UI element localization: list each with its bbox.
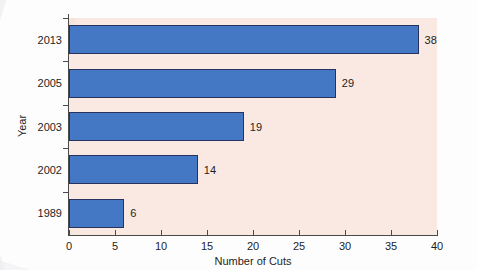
x-tick-label-30: 30 bbox=[339, 241, 351, 252]
x-axis-title: Number of Cuts bbox=[214, 256, 291, 267]
y-tick-mark bbox=[63, 18, 69, 19]
y-tick-label-2003: 2003 bbox=[2, 121, 62, 132]
bar-value-label-2005: 29 bbox=[342, 78, 354, 89]
x-tick-label-15: 15 bbox=[201, 241, 213, 252]
x-tick-mark bbox=[69, 230, 70, 236]
bar-row[interactable]: 38 bbox=[69, 25, 437, 54]
y-axis-tick-labels: 20132005200320021989 bbox=[0, 0, 62, 270]
x-tick-mark bbox=[299, 230, 300, 236]
x-tick-label-20: 20 bbox=[247, 241, 259, 252]
bar-2003[interactable] bbox=[69, 112, 244, 141]
x-tick-mark bbox=[437, 230, 438, 236]
bar-row[interactable]: 19 bbox=[69, 112, 437, 141]
bar-value-label-2003: 19 bbox=[250, 121, 262, 132]
y-tick-mark bbox=[63, 192, 69, 193]
bar-row[interactable]: 14 bbox=[69, 155, 437, 184]
y-axis-title: Year bbox=[17, 115, 28, 137]
x-tick-mark bbox=[345, 230, 346, 236]
bar-1989[interactable] bbox=[69, 199, 124, 228]
bar-row[interactable]: 6 bbox=[69, 199, 437, 228]
x-tick-mark bbox=[391, 230, 392, 236]
y-axis-line bbox=[68, 14, 69, 236]
bar-2005[interactable] bbox=[69, 69, 336, 98]
y-tick-label-1989: 1989 bbox=[2, 208, 62, 219]
x-tick-mark bbox=[115, 230, 116, 236]
bar-value-label-2002: 14 bbox=[204, 164, 216, 175]
y-tick-mark bbox=[63, 61, 69, 62]
x-tick-label-5: 5 bbox=[112, 241, 118, 252]
bar-value-label-2013: 38 bbox=[425, 34, 437, 45]
y-tick-mark bbox=[63, 105, 69, 106]
bar-2002[interactable] bbox=[69, 155, 198, 184]
x-tick-label-10: 10 bbox=[155, 241, 167, 252]
y-tick-label-2013: 2013 bbox=[2, 34, 62, 45]
bar-2013[interactable] bbox=[69, 25, 419, 54]
y-tick-label-2002: 2002 bbox=[2, 164, 62, 175]
x-tick-mark bbox=[161, 230, 162, 236]
bar-value-label-1989: 6 bbox=[130, 208, 136, 219]
x-tick-label-0: 0 bbox=[66, 241, 72, 252]
bar-row[interactable]: 29 bbox=[69, 69, 437, 98]
x-tick-mark bbox=[207, 230, 208, 236]
x-tick-mark bbox=[253, 230, 254, 236]
bar-chart-figure: 382919146 20132005200320021989 051015202… bbox=[0, 0, 477, 270]
x-tick-label-25: 25 bbox=[293, 241, 305, 252]
y-tick-label-2005: 2005 bbox=[2, 78, 62, 89]
y-tick-mark bbox=[63, 148, 69, 149]
x-tick-label-35: 35 bbox=[385, 241, 397, 252]
plot-area: 382919146 bbox=[69, 18, 437, 235]
x-tick-label-40: 40 bbox=[431, 241, 443, 252]
